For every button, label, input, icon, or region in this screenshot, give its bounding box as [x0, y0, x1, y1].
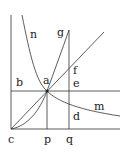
- label-c: c: [8, 133, 14, 146]
- label-b: b: [16, 76, 23, 89]
- point-a: [46, 90, 49, 93]
- label-g: g: [57, 26, 64, 39]
- label-p: p: [44, 133, 51, 146]
- geometric-diagram: n g f b a e m d c p q: [0, 0, 126, 153]
- label-m: m: [94, 100, 105, 113]
- label-a: a: [43, 74, 50, 87]
- label-n: n: [30, 28, 37, 41]
- label-e: e: [73, 77, 80, 90]
- diagonal-line: [11, 32, 104, 129]
- label-q: q: [66, 133, 73, 146]
- label-f: f: [73, 64, 78, 77]
- label-d: d: [73, 110, 80, 123]
